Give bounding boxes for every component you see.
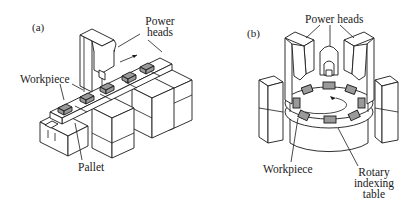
power-heads-label-b: Power heads bbox=[305, 14, 363, 25]
transfer-machine-figure: (a) Power heads Workpiece Pallet (b) Pow… bbox=[0, 0, 417, 204]
panel-b-drawing bbox=[259, 25, 398, 166]
workpiece-label-a: Workpiece bbox=[20, 74, 70, 85]
panel-a-tag: (a) bbox=[32, 22, 44, 33]
power-heads-label-a-line2: heads bbox=[140, 27, 180, 38]
rotary-label-line3: table bbox=[349, 189, 399, 200]
workpiece-label-b: Workpiece bbox=[263, 164, 313, 175]
panel-b-tag: (b) bbox=[247, 28, 260, 39]
panel-a-drawing bbox=[40, 29, 192, 160]
pallet-label: Pallet bbox=[78, 162, 104, 173]
power-heads-label-a: Power heads bbox=[140, 16, 180, 38]
rotary-indexing-table-label: Rotary indexing table bbox=[349, 167, 399, 200]
